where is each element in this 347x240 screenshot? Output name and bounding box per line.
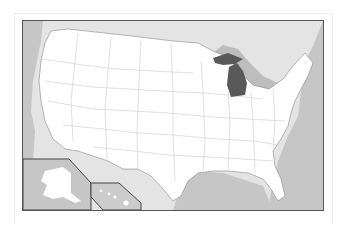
us-locator-map: United States locator map	[22, 20, 324, 211]
map-svg	[23, 21, 323, 210]
